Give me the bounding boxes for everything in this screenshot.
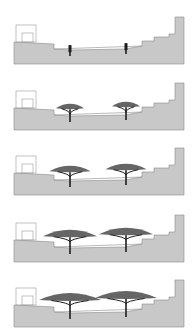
tree-sapling xyxy=(125,43,128,50)
building-inner-outline xyxy=(22,164,33,173)
building-inner-outline xyxy=(22,99,33,108)
building-inner-outline xyxy=(22,296,33,305)
section-panel-3 xyxy=(0,143,195,199)
ground-section xyxy=(14,215,184,262)
ground-section xyxy=(14,148,184,195)
ground-section xyxy=(14,17,184,64)
tree-canopy xyxy=(95,291,157,299)
section-diagram xyxy=(0,0,195,336)
building-inner-outline xyxy=(22,33,33,42)
section-panel-2 xyxy=(0,78,195,134)
building-inner-outline xyxy=(22,231,33,240)
tree-canopy xyxy=(39,293,101,301)
section-panel-1 xyxy=(0,12,195,68)
section-panel-4 xyxy=(0,210,195,266)
tree-sapling xyxy=(69,45,72,52)
ground-section xyxy=(14,83,184,130)
ground-section xyxy=(14,280,184,327)
tree-canopy xyxy=(49,166,90,172)
tree-canopy xyxy=(56,104,84,109)
tree-canopy xyxy=(112,102,140,107)
section-panel-5 xyxy=(0,275,195,331)
tree-canopy xyxy=(43,230,97,237)
tree-canopy xyxy=(99,228,153,235)
tree-canopy xyxy=(105,164,146,170)
